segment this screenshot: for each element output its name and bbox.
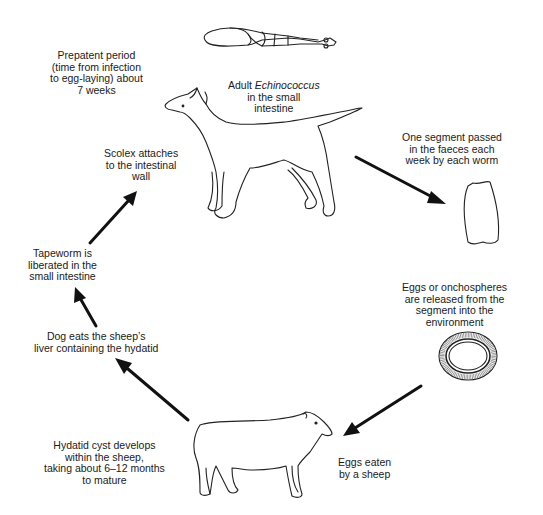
eggs-line: segment into the — [402, 305, 507, 317]
eggs-line: Eggs or onchospheres — [402, 282, 507, 294]
dog-eats-line: liver containing the hydatid — [34, 343, 158, 355]
arrow-sheep-to-dog-eats — [115, 358, 188, 420]
segment-line: One segment passed — [402, 132, 502, 144]
eaten-line: by a sheep — [338, 469, 391, 481]
prepatent-line: to egg-laying) about — [50, 73, 143, 85]
adult-worm-label-prefix: Adult — [228, 79, 255, 91]
adult-worm-genus: Echinococcus — [255, 79, 320, 91]
egg-onchosphere-icon — [439, 332, 497, 380]
adult-worm-label-line: intestine — [228, 103, 320, 115]
eaten-line: Eggs eaten — [338, 457, 391, 469]
prepatent-label: Prepatent period (time from infection to… — [50, 50, 143, 96]
tapeworm-icon — [204, 28, 336, 48]
adult-worm-label: Adult Echinococcus in the small intestin… — [228, 80, 320, 115]
eaten-label: Eggs eaten by a sheep — [338, 457, 391, 480]
hydatid-line: taking about 6–12 months — [44, 463, 165, 475]
dog-eats-line: Dog eats the sheep’s — [34, 331, 158, 343]
liberated-line: small intestine — [28, 271, 97, 283]
sheep-icon — [194, 412, 332, 497]
proglottid-segment-icon — [464, 182, 498, 244]
scolex-line: Scolex attaches — [104, 148, 178, 160]
liberated-label: Tapeworm is liberated in the small intes… — [28, 248, 97, 283]
segment-line: week by each worm — [402, 155, 502, 167]
arrow-liberated-to-scolex — [90, 191, 137, 243]
scolex-line: wall — [104, 171, 178, 183]
eggs-line: environment — [402, 317, 507, 329]
dog-eats-label: Dog eats the sheep’s liver containing th… — [34, 331, 158, 354]
prepatent-line: Prepatent period — [50, 50, 143, 62]
scolex-label: Scolex attaches to the intestinal wall — [104, 148, 178, 183]
hydatid-label: Hydatid cyst develops within the sheep, … — [44, 440, 165, 486]
arrow-dog-eats-to-liberated — [74, 287, 96, 326]
arrow-eggs-to-sheep — [343, 386, 421, 436]
liberated-line: Tapeworm is — [28, 248, 97, 260]
eggs-label: Eggs or onchospheres are released from t… — [402, 282, 507, 328]
hydatid-line: to mature — [44, 475, 165, 487]
hydatid-line: Hydatid cyst develops — [44, 440, 165, 452]
prepatent-line: 7 weeks — [50, 85, 143, 97]
segment-label: One segment passed in the faeces each we… — [402, 132, 502, 167]
